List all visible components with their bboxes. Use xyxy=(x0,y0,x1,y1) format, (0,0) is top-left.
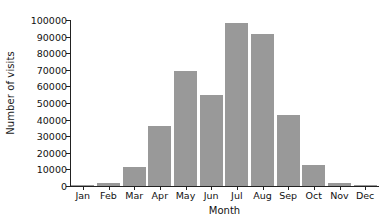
y-tick-label: 50000 xyxy=(37,98,67,109)
x-tick-label: Jul xyxy=(224,190,250,201)
y-tick-label: 0 xyxy=(61,181,67,192)
x-tick-label: Aug xyxy=(250,190,276,201)
x-tick-label: Oct xyxy=(301,190,327,201)
x-tick-label: Mar xyxy=(121,190,147,201)
y-tick-label: 10000 xyxy=(37,164,67,175)
x-tick-label: Jan xyxy=(70,190,96,201)
x-tick-label: Jun xyxy=(198,190,224,201)
bar xyxy=(302,165,325,186)
y-tick-label: 30000 xyxy=(37,131,67,142)
y-tick-label: 100000 xyxy=(31,15,67,26)
x-tick-label: Nov xyxy=(327,190,353,201)
x-axis-line xyxy=(70,186,379,187)
y-tick-label: 70000 xyxy=(37,64,67,75)
bar xyxy=(200,95,223,186)
bar xyxy=(148,126,171,186)
y-tick-label: 80000 xyxy=(37,48,67,59)
y-tick-label: 40000 xyxy=(37,114,67,125)
bar-chart: Number of visits 01000020000300004000050… xyxy=(0,0,390,224)
bar xyxy=(225,23,248,187)
plot-area: 0100002000030000400005000060000700008000… xyxy=(70,20,378,186)
bar xyxy=(277,115,300,186)
x-tick-label: May xyxy=(173,190,199,201)
x-axis-title: Month xyxy=(70,205,379,216)
y-axis-title: Number of visits xyxy=(2,0,18,186)
x-tick-label: Dec xyxy=(352,190,378,201)
y-tick-label: 60000 xyxy=(37,81,67,92)
bar xyxy=(123,167,146,186)
x-tick-label: Apr xyxy=(147,190,173,201)
y-tick-label: 90000 xyxy=(37,31,67,42)
x-tick-label: Sep xyxy=(275,190,301,201)
bar xyxy=(251,34,274,186)
y-tick-label: 20000 xyxy=(37,147,67,158)
x-tick-label: Feb xyxy=(96,190,122,201)
bar xyxy=(174,71,197,186)
